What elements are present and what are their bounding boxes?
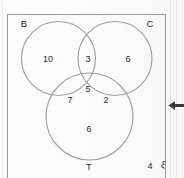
region-value-t-only: 6 <box>86 125 91 134</box>
left-pointing-arrow-icon <box>168 99 184 112</box>
universal-set-symbol: ξ <box>161 161 165 170</box>
page-edge-rule-1 <box>170 0 171 178</box>
set-label-T: T <box>86 162 92 172</box>
page-edge-rule-2 <box>176 0 177 178</box>
region-value-c-and-t: 2 <box>103 96 108 105</box>
page-edge-rule-3 <box>182 0 183 178</box>
venn-diagram-page: B C T 10 3 6 7 5 2 6 4 ξ <box>0 0 184 178</box>
circle-set-B <box>22 22 96 96</box>
set-label-B: B <box>21 19 27 29</box>
region-value-b-only: 10 <box>43 55 53 64</box>
region-value-b-and-c: 3 <box>85 55 90 64</box>
venn-circles-group <box>0 0 184 178</box>
region-value-b-and-t: 7 <box>67 96 72 105</box>
region-value-b-c-t: 5 <box>85 85 90 94</box>
region-value-outside: 4 <box>147 162 152 171</box>
region-value-c-only: 6 <box>125 55 130 64</box>
set-label-C: C <box>147 19 154 29</box>
